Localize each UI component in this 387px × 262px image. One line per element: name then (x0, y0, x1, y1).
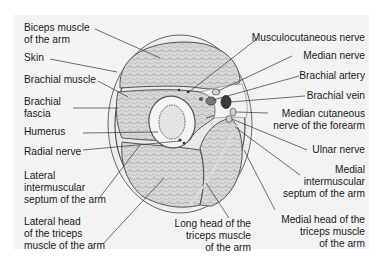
label-lateral-head-triceps: Lateral head of the triceps muscle of th… (24, 216, 105, 252)
label-lateral-septum: Lateral intermuscular septum of the arm (24, 170, 106, 206)
label-brachial-muscle: Brachial muscle (24, 74, 96, 86)
label-musculocutaneous-nerve: Musculocutaneous nerve (252, 32, 365, 44)
label-brachial-fascia: Brachial fascia (24, 96, 61, 120)
label-humerus: Humerus (24, 126, 65, 138)
label-ulnar-nerve: Ulnar nerve (312, 144, 365, 156)
humerus-marrow (159, 105, 185, 139)
label-medial-septum: Medial intermuscular septum of the arm (283, 164, 365, 200)
label-median-cutaneous-nerve: Median cutaneous nerve of the forearm (273, 108, 365, 132)
label-radial-nerve: Radial nerve (24, 146, 81, 158)
ulnar-nerve (226, 116, 232, 123)
triceps-lateral-head (122, 142, 204, 207)
label-skin: Skin (24, 52, 44, 64)
brachial-artery (206, 97, 216, 105)
label-brachial-artery: Brachial artery (299, 70, 365, 82)
label-medial-head-triceps: Medial head of the triceps muscle of the… (281, 214, 365, 250)
musculocutaneous-nerve-dot (178, 89, 181, 92)
label-long-head-triceps: Long head of the triceps muscle of the a… (175, 218, 251, 254)
small-vessel (199, 97, 203, 101)
median-nerve (212, 89, 220, 95)
label-brachial-vein: Brachial vein (307, 90, 365, 102)
median-cutaneous-nerve (230, 108, 236, 116)
label-median-nerve: Median nerve (303, 50, 365, 62)
label-biceps-muscle: Biceps muscle of the arm (24, 22, 90, 46)
biceps-muscle (120, 42, 240, 89)
